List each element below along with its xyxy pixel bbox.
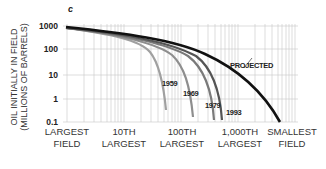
series-projected: [66, 27, 280, 122]
x-tick-line2: LARGEST: [160, 138, 204, 150]
label-1959: 1959: [162, 79, 178, 88]
x-tick-100th-largest: 100TH LARGEST: [160, 126, 204, 150]
x-tick-largest-field: LARGEST FIELD: [45, 126, 89, 150]
x-tick-line1: 10TH: [102, 126, 146, 138]
x-tick-line1: LARGEST: [45, 126, 89, 138]
chart: c OIL INITIALLY IN FIELD (MILLIONS OF BA…: [0, 0, 326, 169]
x-tick-10th-largest: 10TH LARGEST: [102, 126, 146, 150]
label-1993: 1993: [226, 108, 242, 117]
x-tick-line2: LARGEST: [218, 138, 262, 150]
x-tick-line1: 100TH: [160, 126, 204, 138]
label-1979: 1979: [205, 101, 221, 110]
label-projected: PROJECTED: [230, 61, 273, 70]
grid: [63, 24, 298, 122]
x-tick-line1: SMALLEST: [267, 126, 317, 138]
x-tick-1000th-largest: 1,000TH LARGEST: [218, 126, 262, 150]
x-tick-line1: 1,000TH: [218, 126, 262, 138]
label-1969: 1969: [183, 89, 199, 98]
x-tick-line2: LARGEST: [102, 138, 146, 150]
x-tick-line2: FIELD: [45, 138, 89, 150]
x-tick-line2: FIELD: [267, 138, 317, 150]
x-tick-smallest-field: SMALLEST FIELD: [267, 126, 317, 150]
